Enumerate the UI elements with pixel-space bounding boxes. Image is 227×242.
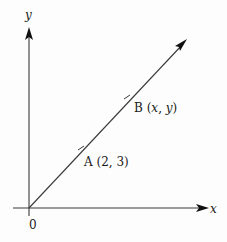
point-b-name: B [134,101,143,115]
diagram-canvas [0,0,227,242]
point-a-tick [78,146,84,150]
point-b-label: B (x, y) [134,102,177,114]
point-b-coord-sep: , [158,101,166,115]
coordinate-diagram: y x 0 A (2, 3) B (x, y) [0,0,227,242]
line-arrowhead-icon [175,39,187,51]
line-through-origin [29,45,182,208]
point-b-tick [124,95,130,99]
y-axis-label: y [25,9,32,21]
x-axis-label: x [210,203,217,215]
origin-label: 0 [29,219,37,231]
point-a-coords: (2, 3) [97,155,129,169]
point-b-coord-y: y [166,101,173,115]
point-a-name: A [84,155,93,169]
point-b-coords-close: ) [173,101,178,115]
point-a-label: A (2, 3) [84,156,129,168]
